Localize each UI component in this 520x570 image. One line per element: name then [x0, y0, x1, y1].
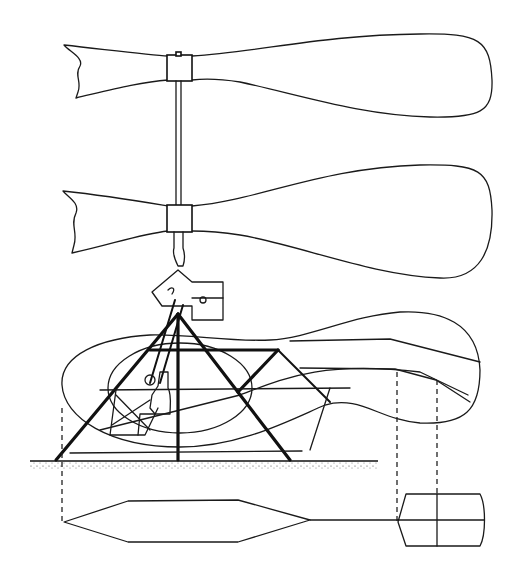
plan-view-hull — [64, 500, 398, 542]
engine-gearbox — [152, 270, 223, 320]
aircraft-drawing — [0, 0, 520, 570]
rotor-mast — [176, 81, 181, 205]
ground-line — [30, 461, 378, 470]
upper-rotor-blade — [64, 34, 492, 117]
tripod-frame — [56, 300, 350, 460]
projection-lines — [62, 372, 437, 522]
lower-rotor-blade — [63, 165, 492, 278]
plan-view-tail — [398, 494, 485, 546]
diagram-canvas — [0, 0, 520, 570]
